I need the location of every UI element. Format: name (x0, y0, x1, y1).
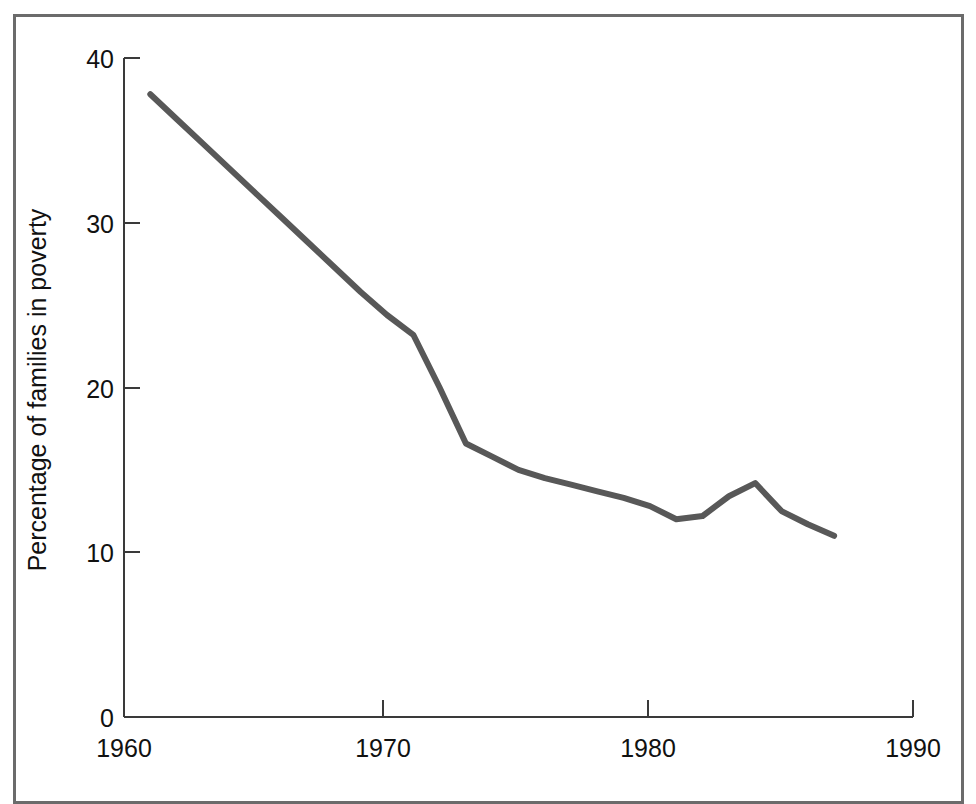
poverty-trend-line (150, 94, 834, 536)
y-axis-title: Percentage of families in poverty (23, 208, 51, 571)
x-tick-label-1970: 1970 (355, 734, 411, 762)
y-tick-label-40: 40 (86, 45, 114, 73)
y-tick-label-0: 0 (100, 704, 114, 732)
y-tick-label-10: 10 (86, 539, 114, 567)
y-tick-label-20: 20 (86, 375, 114, 403)
x-tick-label-1990: 1990 (885, 734, 941, 762)
x-tick-label-1960: 1960 (96, 734, 152, 762)
x-tick-label-1980: 1980 (620, 734, 676, 762)
y-tick-label-30: 30 (86, 210, 114, 238)
